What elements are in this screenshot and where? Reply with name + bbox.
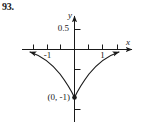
y-tick-label-0.5: 0.5 — [58, 23, 70, 33]
x-axis-label: x — [125, 37, 130, 47]
x-tick-label--1: -1 — [44, 50, 52, 60]
vertex-point-marker — [72, 95, 77, 100]
x-tick-label-1: 1 — [100, 50, 105, 60]
curve-right-branch — [75, 52, 120, 98]
y-axis-label: y — [67, 10, 72, 20]
curve-left-branch — [30, 52, 75, 98]
y-axis — [75, 16, 81, 122]
figure-container: 93. — [0, 0, 141, 126]
graph-figure: x y 0.5 -1 1 (0, -1) — [0, 0, 141, 126]
vertex-point-label: (0, -1) — [48, 92, 71, 102]
x-axis — [22, 45, 132, 50]
